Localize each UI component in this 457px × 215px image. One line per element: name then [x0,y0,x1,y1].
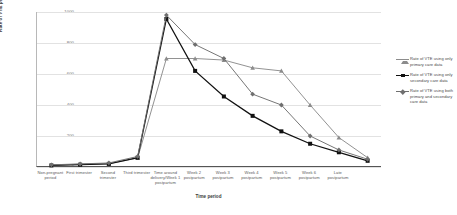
x-axis-tick-label: First trimester [64,170,94,175]
data-point-marker [279,129,283,133]
x-axis-tick-label: Time around delivery/Week 1 postpartum [150,170,180,185]
legend-marker-icon [401,74,405,78]
series-group [49,56,370,167]
legend-item[interactable]: Rate of VTE using only primary care data [396,56,457,67]
data-point-marker [308,142,312,146]
x-axis-tick-label: Non-pregnant period [35,170,65,180]
y-axis-title: Rate of VTE per 100,000 person years [0,0,3,50]
x-axis-tick-label: Third trimester [122,170,152,175]
series-group [49,17,369,167]
x-axis-tick-label: Week 5 postpartum [265,170,295,180]
x-axis-tick-label: Late postpartum [323,170,353,180]
x-axis-title: Time period [36,194,381,199]
legend-marker-icon [400,89,405,94]
series-line [51,19,367,165]
series-layer [37,12,382,167]
legend-label: Rate of VTE using only primary care data [410,56,457,67]
x-axis-tick-label: Week 3 postpartum [208,170,238,180]
vte-rate-line-chart: Rate of VTE per 100,000 person years 020… [0,0,457,215]
x-axis-tick-label: Week 4 postpartum [237,170,267,180]
x-axis-tick-labels: Non-pregnant periodFirst trimesterSecond… [36,170,381,194]
legend-swatch-icon [396,57,409,62]
data-point-marker [251,114,255,118]
chart-legend: Rate of VTE using only primary care data… [396,56,457,110]
series-line [51,15,367,165]
data-point-marker [193,69,197,73]
x-axis-tick-label: Week 6 postpartum [294,170,324,180]
legend-swatch-icon [396,89,409,94]
legend-label: Rate of VTE using only secondary care da… [410,72,457,83]
data-point-marker [222,94,226,98]
legend-marker-icon [401,58,409,65]
x-axis-tick-label: Week 2 postpartum [179,170,209,180]
legend-label: Rate of VTE using both primary and secon… [410,88,457,105]
series-line [51,59,367,166]
legend-item[interactable]: Rate of VTE using only secondary care da… [396,72,457,83]
legend-swatch-icon [396,73,409,78]
x-axis-tick-label: Second trimester [93,170,123,180]
gridline [37,167,381,168]
legend-item[interactable]: Rate of VTE using both primary and secon… [396,88,457,105]
plot-area [36,12,381,167]
series-group [49,13,370,168]
